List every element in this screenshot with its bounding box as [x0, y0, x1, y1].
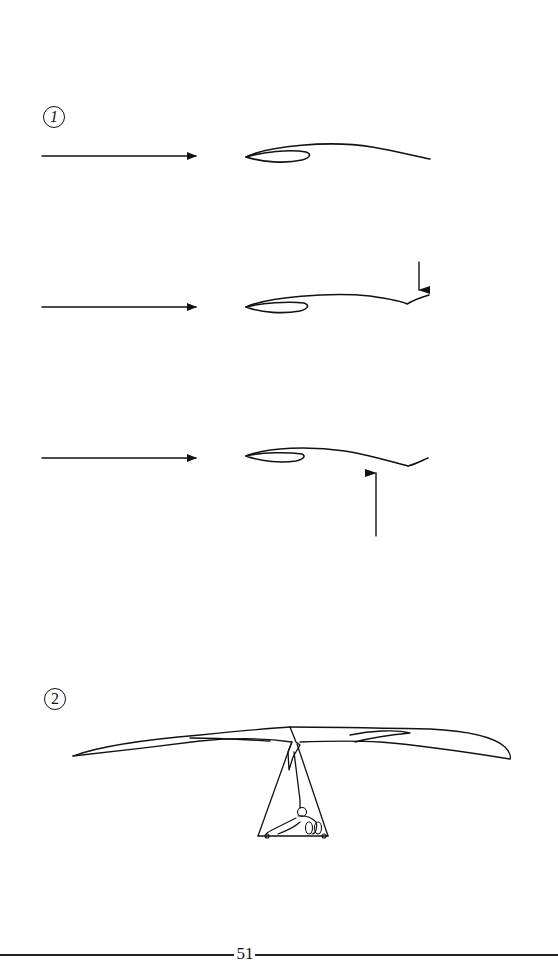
footer-rule-left: [0, 954, 234, 956]
footer-rule-right: [255, 954, 558, 956]
panel-2-down-deflection: [42, 262, 429, 313]
pilot: [265, 808, 326, 839]
page-number: 51: [235, 944, 255, 964]
panel-3-reflex-deflection: [42, 448, 428, 536]
page-footer: 51: [0, 945, 558, 965]
airfoil-upper-surface: [246, 295, 429, 307]
airfoil-upper-surface: [246, 448, 428, 466]
hang-glider: [73, 727, 510, 838]
control-frame-left-upright: [258, 744, 291, 836]
pilot-torso-line: [278, 822, 300, 834]
hang-strap: [294, 752, 300, 808]
panel-1-neutral-airfoil: [42, 144, 430, 162]
control-frame-right-upright: [297, 744, 328, 836]
pilot-body: [298, 816, 317, 834]
pilot-leg-1: [306, 822, 313, 834]
pilot-helmet: [298, 808, 307, 817]
book-page: 1 2: [0, 0, 558, 971]
right-wing-batten: [350, 731, 410, 742]
illustrations: [0, 0, 558, 971]
pilot-leg-2: [315, 822, 322, 834]
airfoil-leading-edge-pocket: [246, 453, 304, 462]
right-wing-trailing-edge: [300, 741, 510, 759]
